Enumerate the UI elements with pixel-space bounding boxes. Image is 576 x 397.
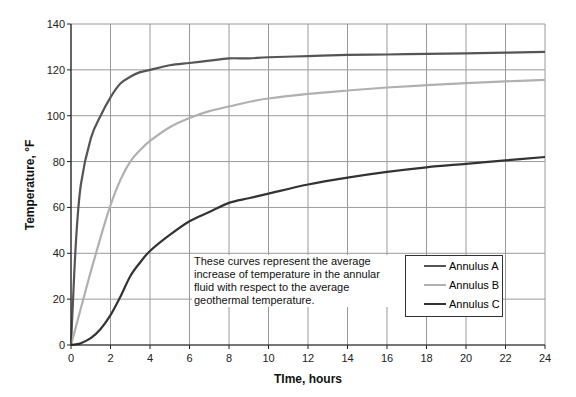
y-axis-ticks: 020406080100120140 (47, 18, 71, 351)
y-tick-label: 0 (59, 339, 65, 351)
annotation-line: fluid with respect to the average (194, 281, 424, 294)
legend-label: Annulus C (449, 298, 500, 310)
legend-swatch-icon (424, 303, 446, 305)
chart-legend: Annulus A Annulus B Annulus C (405, 255, 503, 317)
x-tick-label: 22 (499, 352, 511, 364)
y-tick-label: 60 (53, 201, 65, 213)
y-tick-label: 140 (47, 18, 65, 30)
legend-swatch-icon (424, 284, 446, 286)
x-tick-label: 12 (302, 352, 314, 364)
annotation-line: These curves represent the average (194, 255, 424, 268)
x-tick-label: 8 (226, 352, 232, 364)
x-tick-label: 6 (186, 352, 192, 364)
x-tick-label: 2 (107, 352, 113, 364)
legend-item-annulus-c: Annulus C (406, 294, 502, 313)
x-tick-label: 20 (460, 352, 472, 364)
x-tick-label: 24 (539, 352, 551, 364)
legend-label: Annulus B (449, 279, 499, 291)
y-tick-label: 20 (53, 293, 65, 305)
y-tick-label: 80 (53, 156, 65, 168)
legend-label: Annulus A (449, 260, 499, 272)
annotation-line: increase of temperature in the annular (194, 268, 424, 281)
x-tick-label: 14 (341, 352, 353, 364)
x-axis-title: TIme, hours (274, 372, 342, 386)
legend-swatch-icon (424, 265, 446, 267)
annotation-line: geothermal temperature. (194, 294, 424, 307)
chart-annotation: These curves represent the average incre… (192, 255, 426, 307)
legend-item-annulus-b: Annulus B (406, 275, 502, 294)
x-tick-label: 16 (381, 352, 393, 364)
y-axis-title: Temperature, °F (23, 140, 37, 231)
x-tick-label: 10 (262, 352, 274, 364)
y-tick-label: 40 (53, 247, 65, 259)
y-tick-label: 120 (47, 64, 65, 76)
x-tick-label: 4 (147, 352, 153, 364)
x-tick-label: 18 (420, 352, 432, 364)
line-chart: 024681012141618202224 020406080100120140… (0, 0, 576, 397)
legend-item-annulus-a: Annulus A (406, 256, 502, 275)
y-tick-label: 100 (47, 110, 65, 122)
x-tick-label: 0 (68, 352, 74, 364)
x-axis-ticks: 024681012141618202224 (68, 345, 551, 364)
